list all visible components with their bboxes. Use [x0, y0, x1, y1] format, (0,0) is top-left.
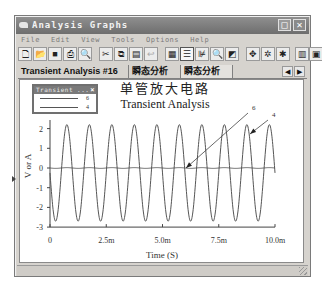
x-tick-label: 10.0m — [265, 236, 286, 245]
x-tick-label: 7.5m — [211, 236, 228, 245]
legend-entry: 4 — [34, 103, 96, 112]
y-tick-label: -3 — [36, 223, 43, 232]
y-tick-label: 0 — [39, 164, 43, 173]
trace-4[interactable] — [50, 125, 275, 222]
transient-chart: 单管放大电路 Transient Analysis 210-1-2-302.5m… — [0, 0, 322, 289]
annotation-label: 4 — [272, 111, 276, 119]
y-tick-label: -1 — [36, 184, 43, 193]
legend-box[interactable]: Transient ... × 6 4 — [32, 84, 98, 114]
y-tick-label: 2 — [39, 125, 43, 134]
annotation-label: 6 — [252, 104, 256, 112]
annotation-arrow-icon — [250, 129, 256, 134]
chart-traces: 64 — [50, 104, 276, 221]
legend-close-icon[interactable]: × — [90, 86, 95, 94]
x-tick-label: 2.5m — [98, 236, 115, 245]
legend-title: Transient ... — [36, 86, 89, 93]
annotation-leader-line — [186, 113, 248, 168]
y-axis-label: V or A — [23, 153, 33, 178]
y-tick-label: 1 — [39, 144, 43, 153]
chart-subtitle: Transient Analysis — [120, 97, 210, 111]
chart-title: 单管放大电路 — [120, 81, 210, 96]
legend-line-swatch — [40, 98, 78, 99]
x-tick-label: 0 — [48, 236, 52, 245]
y-tick-label: -2 — [36, 203, 43, 212]
legend-entry-label: 4 — [86, 103, 89, 112]
chart-axes: 210-1-2-302.5m5.0m7.5m10.0m — [36, 120, 286, 245]
legend-line-swatch — [40, 107, 78, 108]
legend-entry: 6 — [34, 94, 96, 103]
x-axis-label: Time (S) — [146, 250, 178, 260]
legend-title-bar[interactable]: Transient ... × — [34, 86, 96, 94]
x-tick-label: 5.0m — [154, 236, 171, 245]
legend-entry-label: 6 — [86, 94, 89, 103]
